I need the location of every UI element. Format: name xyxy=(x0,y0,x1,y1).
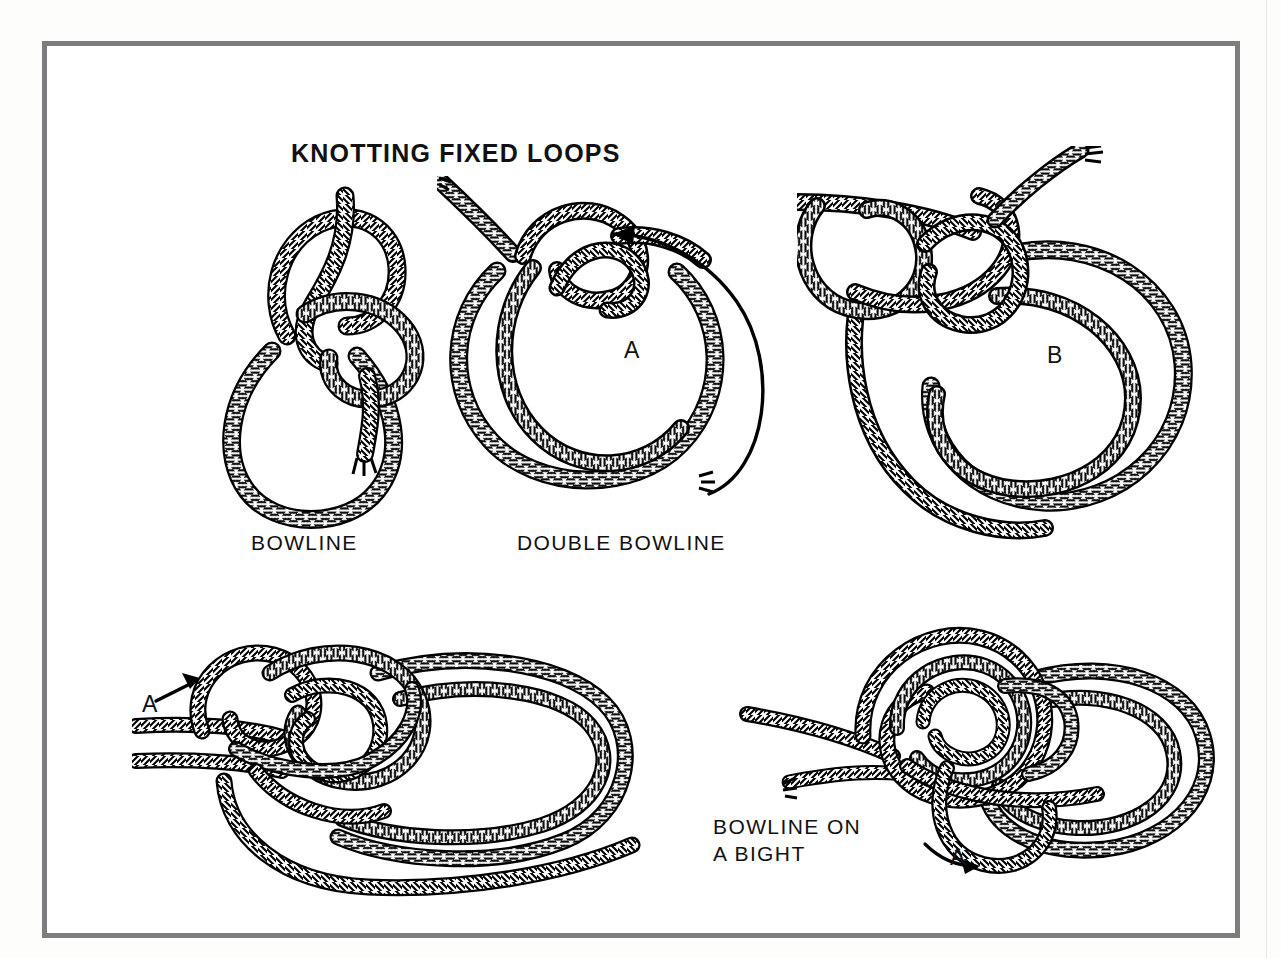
marker-a-bight-step1: A xyxy=(142,691,157,718)
caption-double-bowline: DOUBLE BOWLINE xyxy=(517,529,726,556)
figure-double-bowline-step-b xyxy=(797,146,1217,566)
figure-bowline-on-bight-step-2 xyxy=(737,616,1237,916)
figure-bowline xyxy=(217,186,442,531)
scan-top-artifact-text xyxy=(0,0,1281,5)
page-edge-line xyxy=(1266,0,1267,958)
figure-bowline-on-bight-step-1 xyxy=(132,621,642,911)
marker-a-double-bowline: A xyxy=(624,337,639,364)
figure-double-bowline xyxy=(437,176,777,506)
marker-b-double-bowline: B xyxy=(1047,342,1062,369)
marker-a-bight-step2: A xyxy=(950,844,965,871)
page-title: KNOTTING FIXED LOOPS xyxy=(291,139,621,168)
caption-bowline-on-a-bight: BOWLINE ON A BIGHT xyxy=(713,813,861,867)
illustration-frame: KNOTTING FIXED LOOPS xyxy=(42,41,1240,938)
illustration-plate: KNOTTING FIXED LOOPS xyxy=(47,46,1235,933)
caption-bowline: BOWLINE xyxy=(251,529,358,556)
